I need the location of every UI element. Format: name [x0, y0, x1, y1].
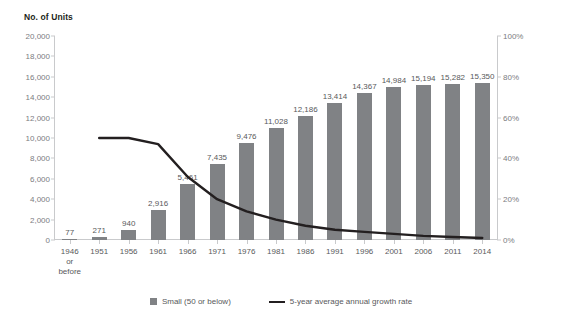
x-tick-mark: [453, 240, 454, 244]
x-tick-mark: [99, 240, 100, 244]
y-tick-label: 2,000: [30, 215, 50, 224]
x-tick-mark: [129, 240, 130, 244]
x-tick-mark: [276, 240, 277, 244]
y-tick-label: 4,000: [30, 195, 50, 204]
y-tick-label: 20,000: [26, 32, 50, 41]
y2-tick-mark: [497, 76, 501, 77]
y-tick-label: 14,000: [26, 93, 50, 102]
y2-tick-label: 100%: [503, 32, 523, 41]
y2-tick-mark: [497, 199, 501, 200]
x-tick-label: 1996: [355, 247, 373, 257]
y2-tick-label: 60%: [503, 113, 519, 122]
x-tick-mark: [247, 240, 248, 244]
x-tick-label: 2001: [385, 247, 403, 257]
legend-item[interactable]: 5-year average annual growth rate: [269, 297, 412, 306]
x-tick-mark: [482, 240, 483, 244]
y2-tick-mark: [497, 117, 501, 118]
legend-item[interactable]: Small (50 or below): [150, 297, 231, 306]
y2-tick-mark: [497, 158, 501, 159]
y-tick-label: 16,000: [26, 72, 50, 81]
x-tick-label: 1971: [208, 247, 226, 257]
y-tick-label: 10,000: [26, 134, 50, 143]
x-tick-mark: [70, 240, 71, 244]
y-tick-label: 12,000: [26, 113, 50, 122]
legend-square-icon: [150, 298, 157, 305]
plot-area: 02,0004,0006,0008,00010,00012,00014,0001…: [55, 36, 497, 240]
y-tick-label: 6,000: [30, 174, 50, 183]
x-tick-label: 1951: [90, 247, 108, 257]
y2-tick-label: 40%: [503, 154, 519, 163]
y2-tick-mark: [497, 240, 501, 241]
line-series: [55, 36, 497, 240]
y2-tick-label: 0%: [503, 236, 515, 245]
chart-legend: Small (50 or below)5-year average annual…: [0, 297, 562, 306]
x-tick-label: 2014: [473, 247, 491, 257]
x-tick-mark: [423, 240, 424, 244]
x-tick-label: 1966: [179, 247, 197, 257]
x-tick-mark: [217, 240, 218, 244]
right-axis-line: [497, 36, 498, 240]
x-tick-mark: [188, 240, 189, 244]
x-tick-label: 2006: [414, 247, 432, 257]
x-tick-mark: [335, 240, 336, 244]
x-tick-mark: [364, 240, 365, 244]
chart-container: No. of Units 02,0004,0006,0008,00010,000…: [0, 0, 562, 312]
x-tick-mark: [394, 240, 395, 244]
y-axis-title: No. of Units: [24, 12, 73, 22]
x-tick-label: 2011: [444, 247, 461, 257]
legend-label: Small (50 or below): [162, 297, 231, 306]
x-tick-label: 1946orbefore: [58, 247, 81, 277]
y2-tick-mark: [497, 36, 501, 37]
growth-rate-line[interactable]: [99, 138, 482, 238]
x-tick-label: 1981: [267, 247, 285, 257]
x-tick-label: 1976: [238, 247, 256, 257]
y-tick-label: 18,000: [26, 52, 50, 61]
y-tick-label: 0: [46, 236, 50, 245]
x-tick-label: 1956: [120, 247, 138, 257]
y-tick-label: 8,000: [30, 154, 50, 163]
x-tick-label: 1961: [149, 247, 167, 257]
y2-tick-label: 20%: [503, 195, 519, 204]
x-tick-mark: [305, 240, 306, 244]
y2-tick-label: 80%: [503, 72, 519, 81]
x-tick-label: 1991: [326, 247, 344, 257]
legend-line-icon: [269, 301, 285, 303]
x-tick-label: 1986: [297, 247, 315, 257]
x-tick-mark: [158, 240, 159, 244]
legend-label: 5-year average annual growth rate: [290, 297, 412, 306]
